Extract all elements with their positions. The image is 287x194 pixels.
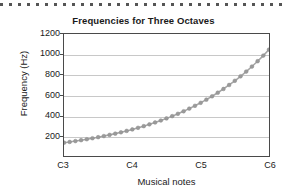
data-point — [136, 126, 140, 130]
data-point — [125, 129, 129, 133]
x-axis-tick-label: C3 — [48, 160, 78, 170]
y-axis-tick-label: 800 — [26, 70, 60, 79]
data-point — [130, 128, 134, 132]
y-axis-tick-mark — [60, 74, 64, 75]
data-point — [64, 141, 66, 145]
data-point — [239, 74, 243, 78]
data-series-svg — [64, 34, 269, 156]
y-axis-tick-mark — [60, 54, 64, 55]
data-point — [227, 83, 231, 87]
chart-title: Frequencies for Three Octaves — [0, 15, 287, 26]
y-axis-tick-label: 600 — [26, 91, 60, 100]
data-point — [74, 139, 78, 143]
y-axis-tick-label: 1000 — [26, 49, 60, 58]
y-axis-tick-mark — [60, 136, 64, 137]
data-point — [222, 87, 226, 91]
data-point — [79, 138, 83, 142]
data-point — [102, 134, 106, 138]
data-point — [244, 70, 248, 74]
data-point — [142, 124, 146, 128]
y-axis-tick-mark — [60, 33, 64, 34]
data-point — [267, 48, 269, 52]
y-axis-tick-mark — [60, 95, 64, 96]
data-point — [153, 121, 157, 125]
data-point — [199, 101, 203, 105]
data-point — [119, 130, 123, 134]
y-axis-tick-label: 200 — [26, 132, 60, 141]
data-point — [187, 107, 191, 111]
data-point — [165, 117, 169, 121]
data-point — [159, 119, 163, 123]
data-point — [261, 54, 265, 58]
y-axis-tick-mark — [60, 116, 64, 117]
series-line — [64, 50, 269, 143]
data-point — [96, 135, 100, 139]
data-point — [176, 112, 180, 116]
data-point — [204, 98, 208, 102]
data-point — [108, 133, 112, 137]
data-point — [91, 136, 95, 140]
data-point — [148, 122, 152, 126]
x-axis-tick-label: C6 — [255, 160, 285, 170]
y-axis-tick-label: 400 — [26, 111, 60, 120]
data-point — [85, 137, 89, 141]
data-point — [182, 109, 186, 113]
data-point — [113, 132, 117, 136]
data-point — [256, 59, 260, 63]
x-axis-tick-labels: C3C4C5C6 — [0, 160, 287, 174]
x-axis-title: Musical notes — [63, 176, 270, 187]
chart-figure: Frequencies for Three Octaves 2004006008… — [0, 0, 287, 194]
y-axis-tick-labels: 20040060080010001200 — [24, 33, 60, 157]
data-point — [68, 140, 72, 144]
data-point — [193, 104, 197, 108]
x-axis-tick-label: C4 — [117, 160, 147, 170]
data-point — [170, 114, 174, 118]
data-point — [233, 79, 237, 83]
data-point — [250, 65, 254, 69]
dotted-top-rule — [0, 3, 287, 6]
data-point — [216, 91, 220, 95]
plot-area — [63, 33, 270, 157]
y-axis-tick-label: 1200 — [26, 29, 60, 38]
y-axis-title: Frequency (Hz) — [18, 19, 29, 149]
x-axis-tick-label: C5 — [186, 160, 216, 170]
data-point — [210, 94, 214, 98]
